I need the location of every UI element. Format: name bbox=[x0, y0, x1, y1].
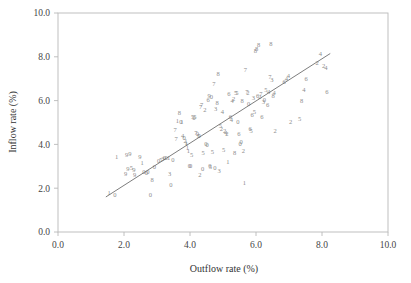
data-point: 5 bbox=[190, 151, 193, 158]
data-point: 9 bbox=[128, 150, 131, 157]
plot-canvas: 0.02.04.06.08.010.0 0.02.04.06.08.010.0 … bbox=[0, 0, 411, 283]
data-point: 7 bbox=[175, 135, 179, 142]
y-tick-label: 0.0 bbox=[38, 227, 50, 237]
x-tick-label: 2.0 bbox=[118, 240, 130, 250]
y-axis-ticks: 0.02.04.06.08.010.0 bbox=[33, 8, 58, 237]
data-point: 1 bbox=[180, 118, 183, 125]
data-point: 1 bbox=[115, 153, 118, 160]
data-point: 4 bbox=[319, 50, 323, 57]
data-point: 0 bbox=[206, 141, 209, 148]
data-point: 4 bbox=[324, 64, 328, 71]
data-point: 0 bbox=[169, 181, 172, 188]
data-point: 5 bbox=[211, 148, 214, 155]
x-tick-label: 4.0 bbox=[184, 240, 196, 250]
y-tick-label: 6.0 bbox=[38, 96, 50, 106]
data-point: 5 bbox=[222, 146, 225, 153]
data-point: 8 bbox=[233, 149, 236, 156]
data-point: 6 bbox=[266, 101, 270, 108]
data-point: 5 bbox=[209, 163, 212, 170]
y-tick-label: 4.0 bbox=[38, 140, 50, 150]
data-point: 8 bbox=[269, 40, 272, 47]
data-point: 3 bbox=[270, 76, 273, 83]
data-point: 2 bbox=[289, 118, 292, 125]
data-point: 3 bbox=[252, 94, 255, 101]
data-point: 2 bbox=[274, 127, 277, 134]
data-point: 1 bbox=[243, 179, 246, 186]
data-point: 0 bbox=[236, 118, 239, 125]
data-point: 3 bbox=[217, 167, 220, 174]
data-point: 8 bbox=[241, 97, 244, 104]
data-point: 0 bbox=[171, 156, 174, 163]
data-point: 1 bbox=[141, 159, 144, 166]
data-point: 5 bbox=[235, 89, 238, 96]
x-tick-label: 10.0 bbox=[380, 240, 397, 250]
data-point: 6 bbox=[227, 90, 231, 97]
data-point: 4 bbox=[221, 108, 225, 115]
data-point: 2 bbox=[225, 130, 228, 137]
data-point: 0 bbox=[240, 138, 243, 145]
data-point: 3 bbox=[168, 170, 171, 177]
data-point: 5 bbox=[253, 108, 256, 115]
y-tick-label: 8.0 bbox=[38, 52, 50, 62]
data-point: 2 bbox=[242, 147, 245, 154]
data-point: 5 bbox=[298, 115, 301, 122]
data-point: 7 bbox=[174, 126, 178, 133]
data-point: 2 bbox=[203, 106, 206, 113]
data-point: 0 bbox=[189, 162, 192, 169]
x-tick-label: 0.0 bbox=[52, 240, 64, 250]
data-point: 5 bbox=[193, 113, 196, 120]
data-point: 4 bbox=[287, 72, 291, 79]
data-point: 7 bbox=[212, 80, 216, 87]
data-point: 5 bbox=[202, 149, 205, 156]
y-tick-label: 10.0 bbox=[33, 8, 50, 18]
data-point: 0 bbox=[210, 93, 213, 100]
data-point: 2 bbox=[246, 89, 249, 96]
data-point: 6 bbox=[260, 113, 264, 120]
data-point: 3 bbox=[214, 105, 217, 112]
data-point: 8 bbox=[150, 176, 153, 183]
data-point: 6 bbox=[305, 75, 309, 82]
y-tick-label: 2.0 bbox=[38, 184, 50, 194]
data-point: 0 bbox=[201, 165, 204, 172]
x-axis-title: Outflow rate (%) bbox=[190, 263, 258, 275]
data-point: 8 bbox=[178, 109, 181, 116]
scatter-plot-figure: 0.02.04.06.08.010.0 0.02.04.06.08.010.0 … bbox=[0, 0, 411, 283]
x-tick-label: 8.0 bbox=[316, 240, 328, 250]
data-point: 8 bbox=[216, 70, 219, 77]
data-point: 6 bbox=[237, 130, 241, 137]
x-tick-label: 6.0 bbox=[250, 240, 262, 250]
data-point: 0 bbox=[213, 164, 216, 171]
data-point: 0 bbox=[149, 191, 152, 198]
data-point: 5 bbox=[249, 127, 252, 134]
data-point: 7 bbox=[244, 66, 248, 73]
data-point: 9 bbox=[124, 170, 127, 177]
x-axis-ticks: 0.02.04.06.08.010.0 bbox=[52, 232, 397, 250]
data-point: 8 bbox=[215, 99, 218, 106]
data-point: 4 bbox=[302, 86, 306, 93]
data-point: 8 bbox=[257, 41, 260, 48]
data-point: 1 bbox=[226, 158, 229, 165]
data-point: 6 bbox=[325, 88, 329, 95]
y-axis-title: Inflow rate (%) bbox=[7, 91, 19, 153]
data-point: 8 bbox=[300, 97, 303, 104]
